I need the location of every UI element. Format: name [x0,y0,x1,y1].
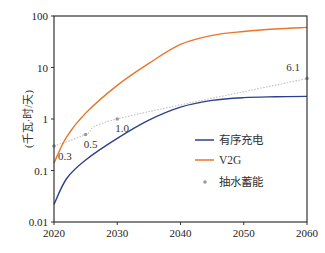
legend: 有序充电 V2G 抽水蓄能 [195,133,264,188]
y-tick-label: 1 [43,113,49,125]
legend-label-pumped-storage: 抽水蓄能 [219,175,264,188]
x-tick-label: 2050 [233,227,256,239]
chart: 0.30.51.06.1 202020302040205020600.010.1… [0,0,325,253]
series-layer: 0.30.51.06.1 [52,27,309,204]
data-label-pumped-storage: 0.3 [58,150,72,162]
x-tick-label: 2040 [170,227,193,239]
ticks-layer: 202020302040205020600.010.1110100 [29,10,319,239]
x-tick-label: 2020 [43,227,66,239]
legend-marker-pumped-storage [203,180,207,184]
data-point-pumped-storage [84,133,88,137]
x-tick-label: 2060 [296,227,319,239]
y-tick-label: 10 [37,62,49,74]
y-axis-label: (千瓦·时/天) [22,90,35,148]
y-tick-label: 0.01 [29,216,48,228]
series-line-pumped-storage [54,79,307,146]
series-line-ordered-charging [54,96,307,204]
data-point-pumped-storage [115,117,119,121]
x-tick-label: 2030 [106,227,129,239]
plot-frame [54,16,307,222]
data-label-pumped-storage: 0.5 [84,138,98,150]
legend-label-ordered-charging: 有序充电 [219,133,264,146]
legend-label-v2g: V2G [219,154,241,166]
y-tick-label: 100 [32,10,49,22]
data-label-pumped-storage: 6.1 [286,61,300,73]
y-tick-label: 0.1 [34,165,48,177]
